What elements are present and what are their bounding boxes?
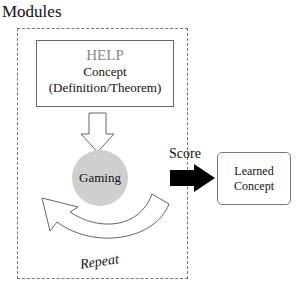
learned-concept-box: Learned Concept	[217, 152, 291, 205]
concept-line: Concept	[234, 179, 274, 194]
learned-line: Learned	[234, 164, 273, 179]
score-arrow-icon	[170, 164, 215, 192]
down-arrow-icon	[81, 113, 114, 152]
diagram-arrows	[0, 0, 308, 295]
score-label: Score	[169, 146, 201, 162]
gaming-label: Gaming	[79, 170, 121, 186]
gaming-node: Gaming	[72, 150, 128, 206]
